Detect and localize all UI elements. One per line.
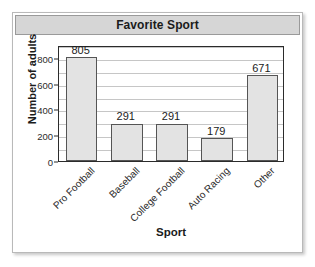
- x-tick-label-text: Other: [252, 165, 277, 190]
- x-axis-title: Sport: [58, 226, 284, 238]
- bar-value-label: 291: [162, 110, 180, 122]
- chart-title-bar: Favorite Sport: [15, 15, 300, 35]
- x-tick-label-text: Pro Football: [50, 165, 96, 211]
- x-tick-label-text: Auto Racing: [186, 165, 232, 211]
- y-tick-label: 0: [25, 157, 53, 168]
- x-tick-label-text: Baseball: [107, 165, 142, 200]
- bar-value-label: 671: [252, 62, 270, 74]
- y-tick-label: 800: [25, 53, 53, 64]
- bar: [66, 57, 98, 161]
- bar-value-label: 291: [117, 110, 135, 122]
- bar-value-label: 805: [71, 44, 89, 56]
- y-tick-label: 400: [25, 105, 53, 116]
- chart-title: Favorite Sport: [116, 18, 199, 32]
- chart-card: Favorite Sport Number of adults 02004006…: [12, 12, 303, 253]
- y-tick-label: 200: [25, 131, 53, 142]
- x-axis-tick-labels: Pro FootballBaseballCollege FootballAuto…: [58, 163, 284, 225]
- y-tick-label: 600: [25, 79, 53, 90]
